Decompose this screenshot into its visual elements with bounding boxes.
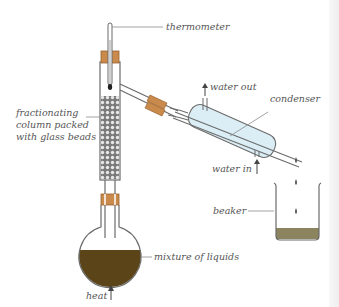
distillation-diagram: thermometer fractionating column packed … [0,0,339,307]
label-thermometer: thermometer [166,21,231,32]
label-condenser: condenser [270,93,321,104]
label-water-in: water in [212,163,252,174]
label-column-3: with glass beads [16,131,96,142]
label-water-out: water out [210,81,257,92]
beaker [274,183,321,240]
thermometer [108,23,112,90]
condenser-jacket [185,101,279,160]
side-arm-cork [145,95,167,116]
water-in-arrow-icon [254,159,260,174]
glass-beads [101,96,119,179]
label-mixture: mixture of liquids [154,251,239,262]
page-edge [329,0,339,307]
label-column-1: fractionating [15,107,78,118]
label-column-2: column packed [16,119,89,130]
flask-cork [101,194,119,205]
water-out-arrow-icon [202,83,208,96]
diagram-canvas: thermometer fractionating column packed … [0,0,339,307]
label-heat: heat [86,290,107,301]
label-beaker: beaker [213,205,248,216]
